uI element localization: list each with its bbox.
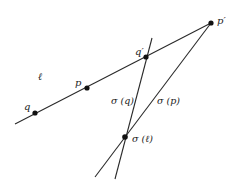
diagram-svg: ℓ p q q′ p′ σ (q) σ (p) σ (ℓ)	[0, 0, 237, 188]
point-sigma-l	[122, 134, 128, 140]
label-p-prime: p′	[217, 15, 226, 26]
label-p: p	[75, 77, 82, 88]
label-q: q	[24, 101, 30, 112]
label-q-prime: q′	[135, 46, 144, 57]
point-q-prime	[143, 54, 148, 59]
point-q	[32, 110, 37, 115]
label-sigma-p: σ (p)	[157, 95, 180, 106]
diagram-canvas: ℓ p q q′ p′ σ (q) σ (p) σ (ℓ)	[0, 0, 237, 188]
point-p-prime	[208, 20, 213, 25]
label-sigma-q: σ (q)	[111, 95, 134, 106]
line-l	[15, 23, 211, 124]
label-sigma-l: σ (ℓ)	[132, 133, 153, 144]
label-l: ℓ	[38, 71, 42, 82]
point-p	[84, 85, 89, 90]
